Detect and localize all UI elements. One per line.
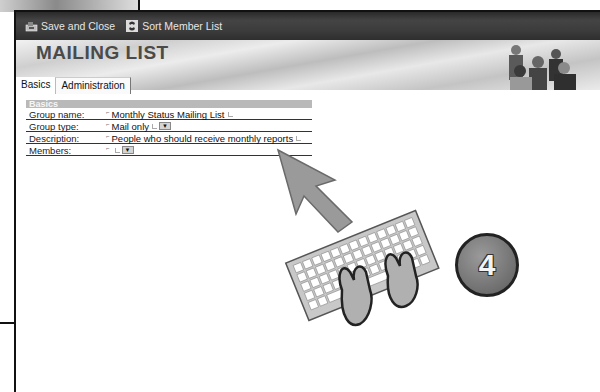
field-row-group-type: Group type: ⌐ Mail only ▼ [26,121,312,132]
screenshot-stage: Save and Close Sort Member List MAILING … [0,0,600,392]
members-dropdown-button[interactable]: ▼ [122,146,134,154]
field-start-marker-icon: ⌐ [106,133,110,139]
field-end-marker-icon [228,112,233,117]
group-type-dropdown-button[interactable]: ▼ [159,122,171,130]
sort-member-list-button[interactable]: Sort Member List [125,20,222,32]
description-value: People who should receive monthly report… [112,133,294,144]
group-name-value: Monthly Status Mailing List [112,109,225,120]
field-end-marker-icon [152,124,157,129]
field-end-marker-icon [115,148,120,153]
members-label: Members: [26,145,106,156]
page-title: MAILING LIST [36,42,169,64]
group-type-select[interactable]: ⌐ Mail only ▼ [106,121,171,132]
tab-basics[interactable]: Basics [16,77,55,94]
field-start-marker-icon: ⌐ [106,121,110,127]
chevron-down-icon: ▼ [125,147,131,153]
group-type-value: Mail only [112,121,150,132]
section-header-basics: Basics [26,100,312,108]
field-start-marker-icon: ⌐ [106,145,110,151]
tab-bar: Basics Administration [16,76,131,94]
save-and-close-button[interactable]: Save and Close [24,20,115,32]
save-close-icon [24,20,38,32]
sort-icon [125,20,139,32]
toolbar: Save and Close Sort Member List [16,12,600,40]
step-number: 4 [479,248,496,282]
field-row-group-name: Group name: ⌐ Monthly Status Mailing Lis… [26,109,312,120]
field-start-marker-icon: ⌐ [106,109,110,115]
members-select[interactable]: ⌐ ▼ [106,146,134,154]
save-and-close-label: Save and Close [41,20,115,32]
chevron-down-icon: ▼ [162,123,168,129]
pointer-arrow-icon [278,150,352,232]
people-photo-icon [498,40,584,90]
sort-member-list-label: Sort Member List [142,20,222,32]
step-number-badge: 4 [455,233,519,297]
tab-administration[interactable]: Administration [55,77,130,94]
group-name-label: Group name: [26,109,106,120]
group-name-input[interactable]: ⌐ Monthly Status Mailing List [106,109,233,120]
group-type-label: Group type: [26,121,106,132]
description-label: Description: [26,133,106,144]
